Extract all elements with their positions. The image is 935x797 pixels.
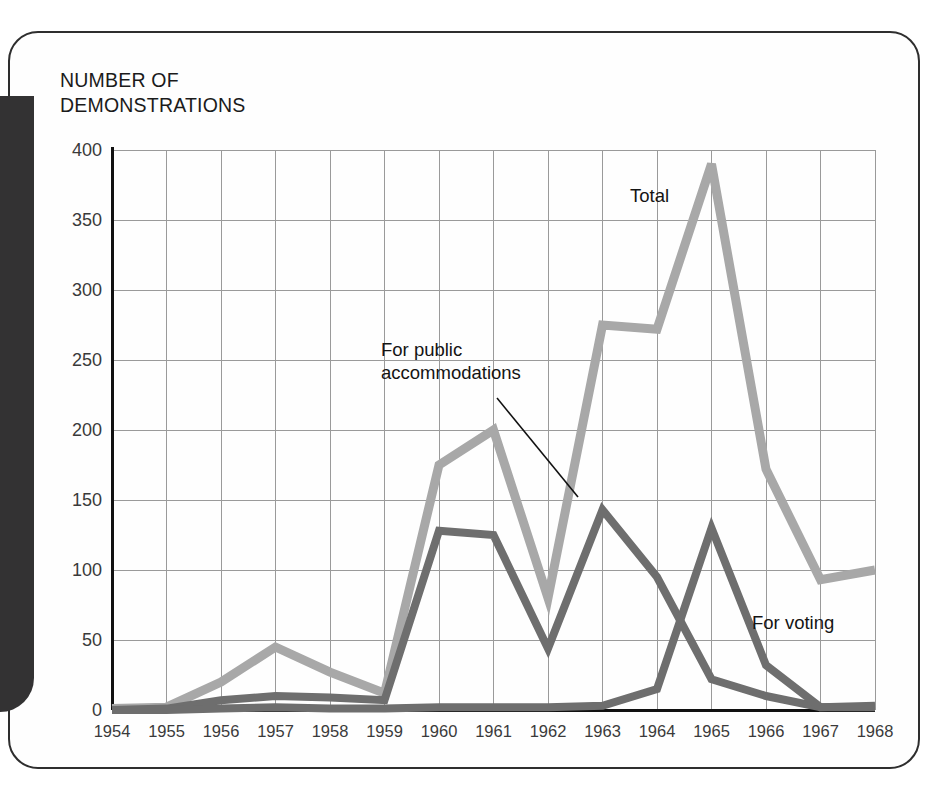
y-tick-label: 300 [44, 280, 102, 301]
x-tick-label: 1955 [148, 722, 185, 741]
y-tick-label: 350 [44, 210, 102, 231]
y-tick-label: 250 [44, 350, 102, 371]
figure-page: NUMBER OF DEMONSTRATIONS 050100150200250… [0, 0, 935, 797]
series-label-for-voting: For voting [752, 611, 834, 634]
y-tick-label: 150 [44, 490, 102, 511]
x-tick-label: 1963 [584, 722, 621, 741]
y-tick-label: 0 [44, 700, 102, 721]
x-tick-label: 1956 [203, 722, 240, 741]
x-tick-label: 1964 [639, 722, 676, 741]
x-tick-label: 1954 [94, 722, 131, 741]
x-tick-label: 1961 [475, 722, 512, 741]
x-tick-label: 1962 [530, 722, 567, 741]
series-label-total: Total [630, 184, 669, 207]
x-tick-label: 1967 [802, 722, 839, 741]
x-tick-label: 1958 [312, 722, 349, 741]
x-tick-label: 1966 [748, 722, 785, 741]
x-tick-label: 1960 [421, 722, 458, 741]
series-label-for-public: For public accommodations [381, 338, 521, 384]
y-tick-label: 100 [44, 560, 102, 581]
y-tick-label: 200 [44, 420, 102, 441]
chart: NUMBER OF DEMONSTRATIONS 050100150200250… [0, 0, 935, 797]
x-tick-label: 1965 [693, 722, 730, 741]
x-tick-label: 1968 [857, 722, 894, 741]
x-tick-label: 1959 [366, 722, 403, 741]
y-tick-label: 400 [44, 140, 102, 161]
plot-canvas [0, 0, 935, 797]
y-tick-label: 50 [44, 630, 102, 651]
x-tick-label: 1957 [257, 722, 294, 741]
